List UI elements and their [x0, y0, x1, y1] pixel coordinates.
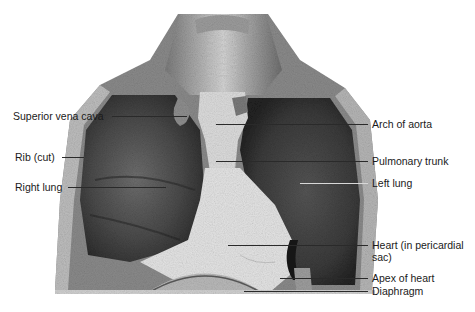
label-rib-cut: Rib (cut) [15, 151, 55, 163]
leader-diaphragm [244, 291, 368, 292]
label-right-lung: Right lung [15, 181, 62, 193]
label-apex-of-heart: Apex of heart [372, 272, 434, 284]
label-left-lung: Left lung [372, 177, 412, 189]
leader-rib-cut [62, 157, 84, 158]
leader-pulmonary-trunk [216, 161, 368, 162]
leader-left-lung [300, 183, 368, 184]
label-heart-line2: sac) [372, 251, 392, 263]
leader-right-lung [68, 187, 166, 188]
leader-apex-of-heart [280, 278, 368, 279]
leader-heart [228, 245, 368, 246]
label-superior-vena-cava: Superior vena cava [13, 110, 103, 122]
leader-superior-vena-cava [112, 116, 187, 117]
leader-arch-of-aorta [216, 124, 368, 125]
label-pulmonary-trunk: Pulmonary trunk [372, 155, 448, 167]
label-heart-line1: Heart (in pericardial [372, 239, 464, 251]
label-diaphragm: Diaphragm [372, 285, 423, 297]
label-arch-of-aorta: Arch of aorta [372, 118, 432, 130]
